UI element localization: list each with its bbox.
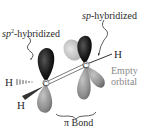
pi-bond-label: π Bond: [64, 118, 93, 128]
hydrogen-right-label: H: [114, 49, 122, 59]
hashed-bond-left: [17, 79, 32, 85]
sp2-hybridized-label: sp2-hybridized: [2, 26, 60, 39]
empty-orbital-label-line1: Empty: [111, 66, 138, 76]
hydrogen-left-label: H: [5, 77, 13, 87]
carbon-right-label: C: [83, 61, 88, 71]
carbon-left-label: C: [43, 79, 48, 89]
right-top-dark-lobe: [77, 36, 91, 64]
sp-hybridized-label: sp-hybridized: [82, 11, 137, 21]
sp2-pointer-line: [27, 36, 33, 59]
sp-pointer-line: [99, 20, 108, 54]
ch-bond-right: [87, 54, 112, 64]
empty-orbital-label-line2: orbital: [111, 77, 137, 87]
hydrogen-bottom-label: H: [17, 100, 25, 110]
cc-bond-line-1: [48, 64, 84, 81]
left-top-dark-lobe: [38, 48, 55, 82]
